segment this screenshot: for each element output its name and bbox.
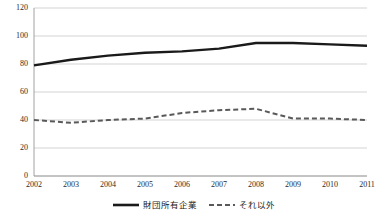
x-tick-label-2003: 2003 — [54, 181, 88, 189]
y-tick-label-120: 120 — [4, 4, 28, 12]
legend-entry-series-1: 財団所有企業 — [113, 200, 197, 210]
legend-entry-series-2: それ以外 — [209, 200, 275, 210]
y-tick-label-100: 100 — [4, 32, 28, 40]
line-chart: 020406080100120 200220032004200520062007… — [0, 0, 388, 222]
x-tick-label-2010: 2010 — [313, 181, 347, 189]
x-tick-label-2004: 2004 — [91, 181, 125, 189]
y-tick-label-40: 40 — [4, 116, 28, 124]
y-tick-label-20: 20 — [4, 144, 28, 152]
x-tick-label-2006: 2006 — [165, 181, 199, 189]
x-tick-label-2002: 2002 — [17, 181, 51, 189]
x-tick-label-2008: 2008 — [239, 181, 273, 189]
y-tick-label-60: 60 — [4, 88, 28, 96]
x-tick-label-2005: 2005 — [128, 181, 162, 189]
y-tick-label-0: 0 — [4, 172, 28, 180]
x-tick-label-2007: 2007 — [202, 181, 236, 189]
data-series-group — [34, 43, 367, 123]
series-line-2 — [34, 109, 367, 123]
legend-swatch-solid-line — [113, 200, 139, 210]
legend-label-series-1: 財団所有企業 — [143, 200, 197, 210]
gridlines — [34, 8, 367, 176]
chart-legend: 財団所有企業 それ以外 — [0, 200, 388, 210]
legend-label-series-2: それ以外 — [239, 200, 275, 210]
series-line-1 — [34, 43, 367, 65]
y-tick-label-80: 80 — [4, 60, 28, 68]
legend-swatch-dashed-line — [209, 200, 235, 210]
x-tick-label-2009: 2009 — [276, 181, 310, 189]
x-tick-label-2011: 2011 — [350, 181, 384, 189]
